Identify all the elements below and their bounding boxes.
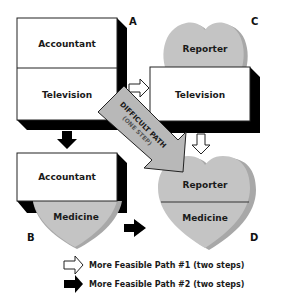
corner-label-b: B (27, 232, 35, 243)
box-a-bottom-label: Television (42, 90, 92, 100)
box-a (17, 18, 117, 120)
legend-item-2-label: More Feasible Path #2 (two steps) (89, 280, 244, 289)
heart-d-top-label: Reporter (183, 180, 229, 190)
box-c-label: Television (175, 90, 225, 100)
corner-label-d: D (250, 232, 258, 243)
box-b-label: Accountant (38, 172, 96, 182)
white-arrow-icon (64, 256, 83, 274)
heart-d-bottom-label: Medicine (182, 213, 228, 223)
career-path-diagram: Accountant Television A Reporter Televis… (0, 0, 284, 304)
legend-item-1-label: More Feasible Path #1 (two steps) (89, 261, 244, 270)
corner-label-c: C (251, 16, 258, 27)
black-arrow-icon (64, 275, 83, 293)
legend: More Feasible Path #1 (two steps) More F… (64, 256, 244, 293)
heart-b-label: Medicine (53, 212, 99, 222)
white-arrow-c-to-d-icon (192, 134, 210, 154)
box-a-top-label: Accountant (38, 39, 96, 49)
quadrant-c: Reporter Television C (150, 16, 260, 133)
corner-label-a: A (129, 16, 137, 27)
black-arrow-b-to-d-icon (124, 219, 146, 237)
black-arrow-a-to-b-icon (57, 131, 77, 149)
heart-c-label: Reporter (183, 44, 229, 54)
quadrant-b: Accountant Medicine B (17, 153, 127, 249)
